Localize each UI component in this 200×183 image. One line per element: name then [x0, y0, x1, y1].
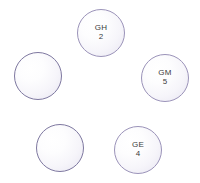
node-ge[interactable]: GE 4	[114, 126, 162, 174]
node-ge-value: 4	[136, 150, 141, 159]
node-left-blank[interactable]	[14, 52, 62, 100]
node-bottomleft-blank[interactable]	[36, 124, 84, 172]
diagram-canvas: GH 2 GM 5 GE 4	[0, 0, 200, 183]
node-gh[interactable]: GH 2	[77, 9, 125, 57]
node-gm-value: 5	[163, 78, 168, 87]
node-gh-value: 2	[99, 33, 104, 42]
node-gm[interactable]: GM 5	[141, 54, 189, 102]
